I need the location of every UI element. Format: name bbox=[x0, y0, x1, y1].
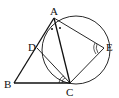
angle-dot-right bbox=[59, 27, 61, 29]
label-A: A bbox=[50, 5, 58, 17]
label-B: B bbox=[4, 78, 11, 90]
segment-EC bbox=[70, 48, 104, 83]
angle-arc-E-inner bbox=[96, 44, 98, 53]
angle-arc-E-outer bbox=[94, 43, 96, 54]
label-E: E bbox=[106, 41, 113, 53]
circumcircle bbox=[42, 16, 110, 84]
label-C: C bbox=[66, 86, 73, 98]
segment-AC bbox=[54, 18, 70, 83]
geometry-diagram: A B C D E bbox=[0, 0, 119, 98]
angle-dot-left bbox=[51, 28, 53, 30]
label-D: D bbox=[28, 41, 36, 53]
